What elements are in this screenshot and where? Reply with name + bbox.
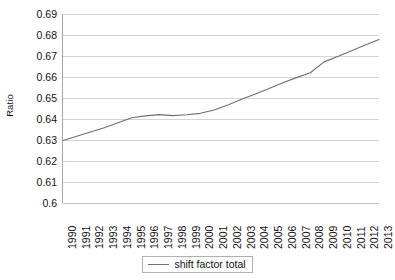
- y-axis-tick-label: 0.69: [37, 8, 57, 20]
- legend-entry-label: shift factor total: [174, 258, 245, 270]
- line-chart: Ratio 0.60.610.620.630.640.650.660.670.6…: [0, 0, 395, 280]
- legend-box: shift factor total: [142, 256, 252, 273]
- x-axis-tick-labels: 1990199119921993199419951996199719981999…: [62, 205, 378, 253]
- series-layer: [63, 14, 379, 203]
- y-axis-tick-label: 0.63: [37, 134, 57, 146]
- plot-area: [62, 14, 379, 203]
- legend: shift factor total: [0, 256, 395, 273]
- y-axis-title-label: Ratio: [4, 94, 15, 117]
- y-axis-tick-label: 0.65: [37, 92, 57, 104]
- y-axis-tick-label: 0.66: [37, 71, 57, 83]
- y-axis-tick-label: 0.61: [37, 176, 57, 188]
- y-axis-tick-label: 0.62: [37, 155, 57, 167]
- series-line-shift-factor-total: [63, 39, 379, 140]
- y-axis-tick-label: 0.6: [42, 197, 57, 209]
- legend-line-swatch: [148, 264, 169, 265]
- gridline: [63, 203, 379, 204]
- y-axis-tick-label: 0.68: [37, 29, 57, 41]
- y-axis-tick-labels: 0.60.610.620.630.640.650.660.670.680.69: [16, 0, 60, 210]
- y-axis-tick-label: 0.67: [37, 50, 57, 62]
- y-axis-tick-label: 0.64: [37, 113, 57, 125]
